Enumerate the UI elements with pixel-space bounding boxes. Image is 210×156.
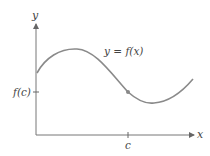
x-tick-label: c [125, 139, 131, 151]
curve-label: y = f(x) [103, 45, 143, 57]
y-axis-label: y [31, 9, 39, 22]
function-graph: y x f(c) c y = f(x) [0, 0, 210, 156]
function-curve [37, 49, 193, 103]
point-c-fc [126, 90, 130, 94]
x-axis-label: x [197, 128, 204, 141]
y-tick-label: f(c) [12, 86, 31, 98]
